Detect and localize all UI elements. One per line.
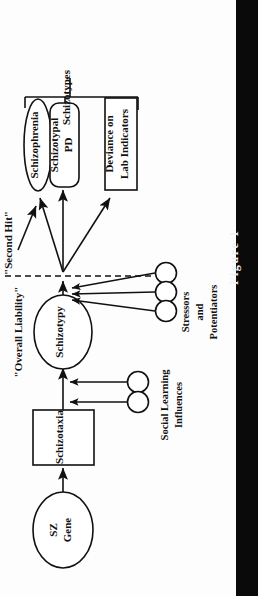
scan-outer-edge bbox=[258, 0, 262, 596]
stressors-marker-3 bbox=[156, 301, 177, 322]
node-schizotypy-label: Schizotypy bbox=[53, 306, 65, 358]
social-learning-label-line1: Social Learning bbox=[159, 369, 170, 441]
annotation-overall-liability: "Overall Liability" bbox=[12, 287, 24, 378]
social-learning-marker-2 bbox=[128, 392, 149, 413]
node-deviance-line2: Lab Indicators bbox=[118, 108, 130, 179]
annotation-second-hit: "Second Hit" bbox=[2, 211, 14, 275]
scan-binding-band bbox=[236, 0, 258, 596]
social-learning-marker-1 bbox=[128, 372, 149, 393]
node-schizotaxia-label: Schizotaxia bbox=[53, 410, 65, 464]
diagram-canvas: SZ Gene Schizotaxia Social Learning Infl… bbox=[0, 0, 236, 596]
edge-hub-to-deviance bbox=[63, 198, 110, 272]
edge-stressor-1 bbox=[72, 273, 155, 288]
node-deviance-line1: Deviance on bbox=[103, 115, 115, 172]
node-schizophrenia-label: Schizophrenia bbox=[28, 111, 40, 179]
social-learning-label-line2: Influences bbox=[173, 382, 184, 428]
bracket-label: Schizotypes bbox=[60, 69, 72, 125]
stressors-marker-1 bbox=[156, 263, 177, 284]
edge-stressor-2 bbox=[72, 292, 155, 294]
stressors-label-line1: Stressors bbox=[180, 292, 191, 333]
stressors-label-line3: Potentiators bbox=[208, 285, 219, 340]
node-schizotypal-pd-line1: Schizotypal bbox=[48, 118, 60, 172]
edge-hub-to-schizophrenia bbox=[40, 198, 63, 272]
stressors-label-line2: and bbox=[194, 303, 205, 320]
node-sz-gene-line2: Gene bbox=[61, 518, 73, 543]
stressors-marker-2 bbox=[156, 282, 177, 303]
node-schizotypal-pd-line2: PD bbox=[62, 138, 74, 153]
edge-second-hit bbox=[18, 206, 36, 250]
figure-page: SZ Gene Schizotaxia Social Learning Infl… bbox=[0, 0, 262, 596]
node-sz-gene-line1: SZ bbox=[47, 523, 59, 536]
figure-caption: Figure 1 bbox=[227, 165, 242, 285]
